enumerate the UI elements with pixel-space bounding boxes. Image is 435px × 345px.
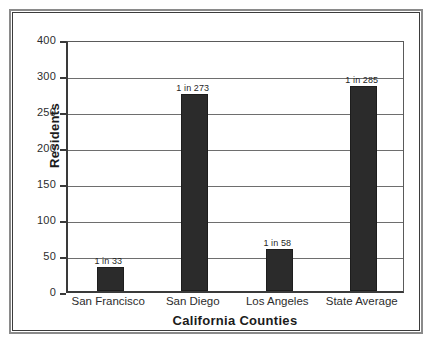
y-axis-tick-label: 150 — [4, 179, 56, 190]
x-axis-title: California Counties — [66, 313, 404, 328]
y-axis-tick-label: 400 — [4, 35, 56, 46]
y-axis-tick-label: 50 — [4, 251, 56, 262]
chart-figure: Residents 400300250200150100500 1 in 331… — [0, 0, 435, 345]
y-axis-tick-label: 100 — [4, 215, 56, 226]
bar-value-label: 1 in 285 — [322, 76, 402, 85]
bar-san-diego[interactable] — [181, 94, 208, 291]
bar-san-francisco[interactable] — [97, 267, 124, 291]
y-axis-tick-label: 0 — [4, 287, 56, 298]
y-axis-tick-mark — [60, 293, 66, 295]
y-axis-tick-label: 250 — [4, 107, 56, 118]
bar-value-label: 1 in 58 — [237, 239, 317, 248]
bar-los-angeles[interactable] — [266, 249, 293, 291]
bar-state-average[interactable] — [350, 86, 377, 291]
y-axis-tick-label: 300 — [4, 71, 56, 82]
bar-value-label: 1 in 33 — [68, 257, 148, 266]
bar-value-label: 1 in 273 — [153, 84, 233, 93]
x-axis-tick-label: State Average — [312, 296, 412, 308]
y-axis-tick-label: 200 — [4, 143, 56, 154]
